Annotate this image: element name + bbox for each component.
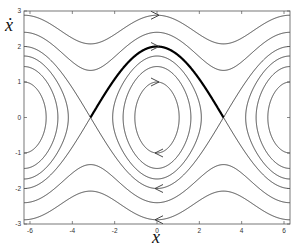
closed-orbit: [113, 56, 202, 179]
x-tick-label: 2: [198, 227, 202, 234]
closed-orbit: [268, 82, 290, 118]
closed-orbit: [24, 67, 58, 169]
rotation-trajectory: [24, 15, 290, 44]
closed-orbit: [135, 82, 179, 153]
rotation-trajectory: [24, 165, 290, 203]
closed-orbit: [24, 82, 46, 153]
rotation-trajectory: [24, 32, 290, 70]
y-tick-label: 0: [17, 114, 21, 121]
closed-orbit: [246, 118, 290, 179]
y-tick-label: -2: [15, 185, 21, 192]
x-tick-label: -2: [112, 227, 118, 234]
x-tick-label: -4: [69, 227, 75, 234]
y-tick-label: -3: [15, 220, 21, 227]
closed-orbit: [256, 118, 290, 169]
y-tick-label: 3: [17, 7, 21, 14]
x-tick-label: -6: [27, 227, 33, 234]
closed-orbit: [246, 56, 290, 117]
x-tick-label: 4: [240, 227, 244, 234]
y-tick-label: 2: [17, 43, 21, 50]
closed-orbit: [268, 118, 290, 154]
y-tick-label: 1: [17, 78, 21, 85]
axis-ticks: -6-4-20246-3-2-10123: [15, 7, 290, 234]
y-axis-label: ẋ: [4, 15, 13, 35]
x-tick-label: 6: [282, 227, 286, 234]
rotation-trajectory: [24, 191, 290, 220]
phase-portrait-plot: -6-4-20246-3-2-10123 x ẋ: [0, 0, 298, 249]
plot-frame: [24, 11, 290, 224]
closed-orbit: [256, 67, 290, 118]
direction-arrows: [151, 11, 163, 223]
y-tick-label: -1: [15, 149, 21, 156]
x-axis-label: x: [151, 227, 160, 247]
